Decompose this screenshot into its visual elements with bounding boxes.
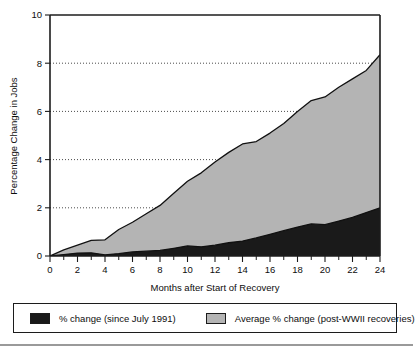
svg-text:10: 10 [182, 264, 193, 275]
svg-text:18: 18 [292, 264, 303, 275]
svg-text:0: 0 [37, 250, 42, 261]
legend-entry-since-july-1991: % change (since July 1991) [30, 304, 176, 332]
legend-label-since-july-1991: % change (since July 1991) [59, 313, 176, 324]
svg-text:8: 8 [157, 264, 162, 275]
legend-swatch-gray-icon [206, 313, 226, 324]
svg-text:8: 8 [37, 58, 42, 69]
svg-text:10: 10 [31, 9, 42, 20]
legend-label-average-post-wwii: Average % change (post-WWII recoveries) [235, 313, 415, 324]
chart-legend: % change (since July 1991) Average % cha… [13, 303, 397, 333]
footer-divider [0, 344, 413, 346]
y-axis-title: Percentage Change in Jobs [8, 77, 19, 194]
svg-text:0: 0 [47, 264, 52, 275]
x-axis-title: Months after Start of Recovery [151, 282, 280, 293]
svg-text:2: 2 [75, 264, 80, 275]
x-tick-group: 024681012141618202224 [47, 256, 385, 275]
svg-text:20: 20 [320, 264, 331, 275]
legend-swatch-dark-icon [30, 313, 50, 324]
legend-entry-average-post-wwii: Average % change (post-WWII recoveries) [206, 304, 415, 332]
svg-text:14: 14 [237, 264, 248, 275]
svg-text:24: 24 [375, 264, 386, 275]
svg-text:4: 4 [37, 154, 42, 165]
svg-text:2: 2 [37, 202, 42, 213]
y-tick-group: 0246810 [31, 9, 50, 261]
svg-text:4: 4 [102, 264, 107, 275]
svg-text:6: 6 [37, 106, 42, 117]
svg-text:12: 12 [210, 264, 221, 275]
svg-text:6: 6 [130, 264, 135, 275]
svg-text:22: 22 [347, 264, 358, 275]
svg-text:16: 16 [265, 264, 276, 275]
